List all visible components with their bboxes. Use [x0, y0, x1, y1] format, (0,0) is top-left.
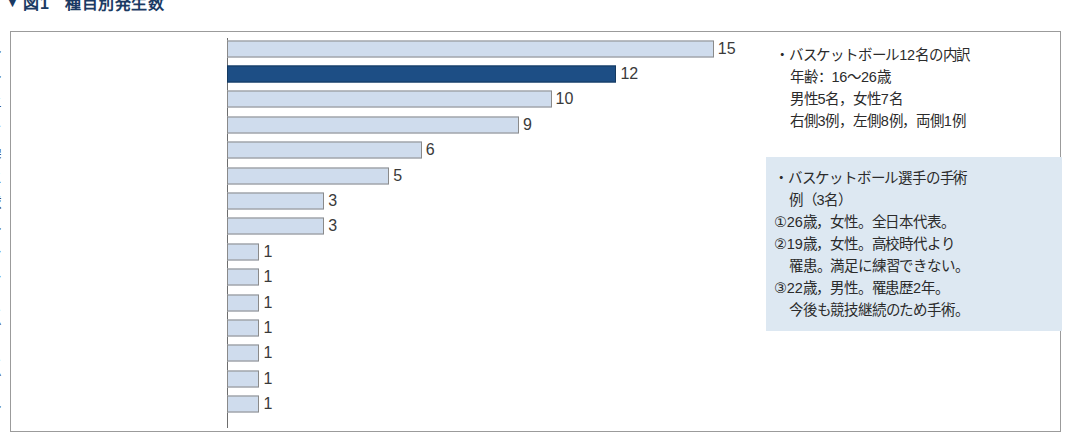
bar-value-label: 1 — [263, 319, 272, 337]
bar-row: チアリーディング1 — [11, 315, 751, 340]
bar-category-label: バドミントン — [0, 267, 1, 288]
bar-row: バレーボール15 — [11, 36, 751, 61]
note-line: 例（3名） — [774, 189, 1054, 211]
bar-category-label: バスケットボール — [0, 64, 1, 85]
bar-value-label: 3 — [328, 192, 337, 210]
bar — [227, 320, 259, 337]
note-line: ・バスケットボール選手の手術 — [774, 167, 1054, 189]
bar — [227, 167, 389, 184]
note-line: 罹患。満足に練習できない。 — [774, 255, 1054, 277]
bar-row: バスケットボール12 — [11, 61, 751, 86]
bar-category-label: アメリカンフットボール — [0, 394, 1, 415]
bar-category-label: 器械体操 — [0, 140, 1, 161]
bar-category-label: バレーボール — [0, 38, 1, 59]
bar-chart-plot-area: バレーボール15バスケットボール12陸上10サッカー9器械体操6クラッシックバレ… — [11, 32, 751, 433]
bar — [227, 370, 259, 387]
bar-row: アメリカンフットボール1 — [11, 392, 751, 417]
bar-category-label: 硬式テニス — [0, 292, 1, 313]
bar-row: 陸上10 — [11, 87, 751, 112]
bar-category-label: 野球 — [0, 191, 1, 212]
note-line: 今後も競技継続のため手術。 — [774, 299, 1054, 321]
bar — [227, 243, 259, 260]
bar — [227, 218, 324, 235]
bar-value-label: 10 — [556, 90, 574, 108]
bar-category-label: ジョギング — [0, 368, 1, 389]
note-line: 年齢：16〜26歳 — [775, 66, 1059, 88]
note-basketball-breakdown: ・バスケットボール12名の内訳年齢：16〜26歳男性5名，女性7名右側3例，左側… — [773, 42, 1059, 132]
bar-value-label: 1 — [263, 395, 272, 413]
bar-category-label: チアリーディング — [0, 318, 1, 339]
bar-row: 野球3 — [11, 188, 751, 213]
bar-row: バドミントン1 — [11, 265, 751, 290]
bar-value-label: 1 — [263, 370, 272, 388]
bar — [227, 269, 259, 286]
note-line: ②19歳，女性。高校時代より — [774, 233, 1054, 255]
bar — [227, 91, 552, 108]
bar-row: ハンドボール3 — [11, 214, 751, 239]
bar-category-label: マラソン — [0, 241, 1, 262]
bar-value-label: 9 — [523, 116, 532, 134]
bar-row: マラソン1 — [11, 239, 751, 264]
bar — [227, 294, 259, 311]
note-line: ③22歳，男性。罹患歴2年。 — [774, 277, 1054, 299]
bar — [227, 193, 324, 210]
bar-value-label: 1 — [263, 268, 272, 286]
bar-row: クラッシックバレエ5 — [11, 163, 751, 188]
bar-category-label: ハンドボール — [0, 216, 1, 237]
bar-value-label: 3 — [328, 217, 337, 235]
note-line: ・バスケットボール12名の内訳 — [775, 44, 1059, 66]
bar-row: 器械体操6 — [11, 138, 751, 163]
bar-value-label: 1 — [263, 294, 272, 312]
bar-row: ジョギング1 — [11, 366, 751, 391]
bar-value-label: 5 — [393, 167, 402, 185]
bar-value-label: 15 — [718, 40, 736, 58]
figure-caption: ▼ 図1 種目別発生数 — [6, 0, 164, 13]
bar-value-label: 6 — [426, 141, 435, 159]
bar-value-label: 1 — [263, 243, 272, 261]
chart-frame: バレーボール15バスケットボール12陸上10サッカー9器械体操6クラッシックバレ… — [10, 31, 1061, 432]
bar — [227, 396, 259, 413]
bar-category-label: クラッシックバレエ — [0, 165, 1, 186]
bar-category-label: ソフトテニス — [0, 343, 1, 364]
bar-row: サッカー9 — [11, 112, 751, 137]
note-line: ①26歳，女性。全日本代表。 — [774, 211, 1054, 233]
bar-row: ソフトテニス1 — [11, 341, 751, 366]
bar — [227, 116, 519, 133]
bar — [227, 142, 422, 159]
figure-number: 図1 — [23, 0, 49, 14]
bar — [227, 40, 714, 57]
bar — [227, 345, 259, 362]
bar-row: 硬式テニス1 — [11, 290, 751, 315]
bar-highlighted — [227, 66, 616, 83]
caption-marker-icon: ▼ — [6, 0, 19, 9]
note-line: 男性5名，女性7名 — [775, 88, 1059, 110]
note-basketball-surgery-cases: ・バスケットボール選手の手術例（3名）①26歳，女性。全日本代表。②19歳，女性… — [766, 157, 1062, 331]
bar-category-label: 陸上 — [0, 89, 1, 110]
bar-value-label: 1 — [263, 344, 272, 362]
bar-value-label: 12 — [620, 65, 638, 83]
bar-category-label: サッカー — [0, 114, 1, 135]
figure-title: 種目別発生数 — [65, 0, 164, 14]
note-line: 右側3例，左側8例，両側1例 — [775, 110, 1059, 132]
